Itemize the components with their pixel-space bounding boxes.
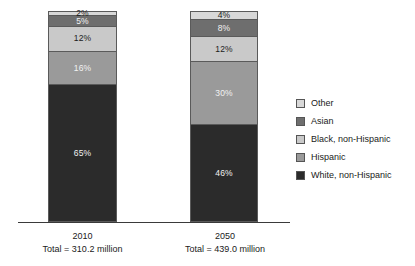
plot-area: 2% 5% 12% 16% 65% 4% 8% 12% bbox=[0, 0, 290, 266]
legend-swatch-icon bbox=[296, 135, 305, 144]
legend-label: Hispanic bbox=[311, 152, 346, 162]
legend: Other Asian Black, non-Hispanic Hispanic… bbox=[296, 94, 415, 184]
segment-2050-hispanic[interactable]: 30% bbox=[191, 62, 257, 125]
segment-label: 4% bbox=[218, 11, 231, 20]
segment-2050-white-non-hispanic[interactable]: 46% bbox=[191, 125, 257, 221]
segment-2050-asian[interactable]: 8% bbox=[191, 20, 257, 37]
bar-2050[interactable]: 4% 8% 12% 30% 46% bbox=[190, 11, 258, 222]
legend-item-black-non-hispanic[interactable]: Black, non-Hispanic bbox=[296, 130, 415, 148]
x-axis-line bbox=[18, 222, 290, 223]
segment-2050-black-non-hispanic[interactable]: 12% bbox=[191, 37, 257, 62]
stacked-bar-chart: 2% 5% 12% 16% 65% 4% 8% 12% bbox=[0, 0, 415, 266]
segment-2010-asian[interactable]: 5% bbox=[49, 16, 116, 26]
legend-label: Asian bbox=[311, 116, 334, 126]
x-axis-total-label: Total = 310.2 million bbox=[10, 243, 155, 256]
x-axis-year-label: 2010 bbox=[10, 230, 155, 243]
legend-label: Other bbox=[311, 98, 334, 108]
segment-label: 46% bbox=[215, 169, 232, 178]
x-axis-caption-2050: 2050 Total = 439.0 million bbox=[150, 230, 300, 256]
segment-label: 12% bbox=[215, 45, 232, 54]
segment-label: 65% bbox=[74, 149, 91, 158]
legend-swatch-icon bbox=[296, 171, 305, 180]
segment-2050-other[interactable]: 4% bbox=[191, 12, 257, 20]
legend-label: Black, non-Hispanic bbox=[311, 134, 391, 144]
segment-label: 12% bbox=[74, 34, 91, 43]
segment-label: 30% bbox=[215, 89, 232, 98]
segment-2010-black-non-hispanic[interactable]: 12% bbox=[49, 27, 116, 52]
segment-label: 5% bbox=[76, 17, 89, 26]
legend-swatch-icon bbox=[296, 99, 305, 108]
legend-swatch-icon bbox=[296, 117, 305, 126]
legend-item-hispanic[interactable]: Hispanic bbox=[296, 148, 415, 166]
segment-label: 8% bbox=[218, 24, 231, 33]
x-axis-caption-2010: 2010 Total = 310.2 million bbox=[10, 230, 155, 256]
x-axis-total-label: Total = 439.0 million bbox=[150, 243, 300, 256]
x-axis-year-label: 2050 bbox=[150, 230, 300, 243]
legend-item-asian[interactable]: Asian bbox=[296, 112, 415, 130]
bar-2010[interactable]: 2% 5% 12% 16% 65% bbox=[48, 11, 117, 222]
legend-item-other[interactable]: Other bbox=[296, 94, 415, 112]
segment-label: 16% bbox=[74, 64, 91, 73]
legend-swatch-icon bbox=[296, 153, 305, 162]
legend-item-white-non-hispanic[interactable]: White, non-Hispanic bbox=[296, 166, 415, 184]
legend-label: White, non-Hispanic bbox=[311, 170, 392, 180]
segment-2010-white-non-hispanic[interactable]: 65% bbox=[49, 85, 116, 221]
segment-2010-hispanic[interactable]: 16% bbox=[49, 52, 116, 85]
